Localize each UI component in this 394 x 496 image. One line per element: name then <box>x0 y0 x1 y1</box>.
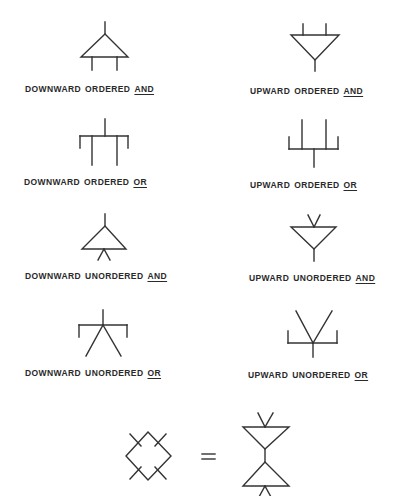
label-direction: DOWNWARD <box>24 177 80 187</box>
label-gate: AND <box>147 271 167 281</box>
label-gate: OR <box>133 177 147 187</box>
label-gate: OR <box>344 180 358 190</box>
upward-unordered-or-symbol <box>288 311 337 357</box>
label-upward-ordered-or: UPWARDORDEREDOR <box>250 180 357 190</box>
label-direction: UPWARD <box>248 370 288 380</box>
label-downward-unordered-and: DOWNWARDUNORDEREDAND <box>25 271 167 281</box>
label-gate: AND <box>344 86 364 96</box>
label-gate: OR <box>355 370 369 380</box>
label-ordering: ORDERED <box>84 177 129 187</box>
label-direction: DOWNWARD <box>25 271 81 281</box>
label-direction: DOWNWARD <box>25 368 81 378</box>
label-downward-ordered-or: DOWNWARDORDEREDOR <box>24 177 147 187</box>
label-upward-ordered-and: UPWARDORDEREDAND <box>250 86 363 96</box>
stacked-unordered-and-symbol <box>243 413 289 496</box>
label-direction: UPWARD <box>250 86 290 96</box>
label-ordering: ORDERED <box>85 84 130 94</box>
upward-ordered-and-symbol <box>291 24 339 71</box>
label-gate: AND <box>134 84 154 94</box>
diagram-canvas <box>0 0 394 496</box>
downward-unordered-and-symbol <box>82 214 126 260</box>
label-downward-ordered-and: DOWNWARDORDEREDAND <box>25 84 154 94</box>
upward-ordered-or-symbol <box>289 120 338 167</box>
label-downward-unordered-or: DOWNWARDUNORDEREDOR <box>25 368 161 378</box>
label-direction: UPWARD <box>250 180 290 190</box>
label-upward-unordered-and: UPWARDUNORDEREDAND <box>249 273 375 283</box>
label-ordering: ORDERED <box>294 180 339 190</box>
downward-ordered-and-symbol <box>81 22 128 70</box>
label-gate: OR <box>147 368 161 378</box>
label-gate: AND <box>356 273 376 283</box>
equals-sign <box>202 454 215 459</box>
label-ordering: ORDERED <box>294 86 339 96</box>
label-upward-unordered-or: UPWARDUNORDEREDOR <box>248 370 368 380</box>
label-ordering: UNORDERED <box>292 370 350 380</box>
downward-unordered-or-symbol <box>79 310 127 356</box>
label-direction: UPWARD <box>249 273 289 283</box>
upward-unordered-and-symbol <box>291 215 336 261</box>
label-ordering: UNORDERED <box>293 273 351 283</box>
label-direction: DOWNWARD <box>25 84 81 94</box>
downward-ordered-or-symbol <box>80 119 128 165</box>
label-ordering: UNORDERED <box>85 271 143 281</box>
diamond-symbol <box>126 432 171 480</box>
label-ordering: UNORDERED <box>85 368 143 378</box>
